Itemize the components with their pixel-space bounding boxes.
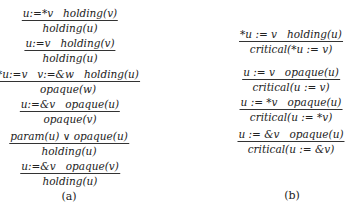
inference-rule: *u := v holding(u) critical(*u := v): [239, 28, 343, 55]
rule-divider: [242, 79, 340, 80]
rule-premise: *u:=v v:=&w holding(u): [0, 68, 140, 80]
rule-conclusion: critical(u := v): [251, 81, 330, 93]
rule-premise: param(u) ∨ opaque(u): [9, 130, 129, 142]
rule-premise: u:=&v opaque(v): [20, 160, 120, 172]
rule-divider: [239, 41, 343, 42]
rule-conclusion: critical(u := &v): [247, 143, 336, 155]
inference-rule: *u:=v v:=&w holding(u) opaque(w): [0, 68, 140, 95]
rule-premise: u := v opaque(u): [242, 66, 340, 78]
rule-divider: [0, 81, 140, 82]
rule-premise: u:=v holding(v): [24, 37, 115, 49]
rule-premise: *u := v holding(u): [239, 28, 343, 40]
inference-rule: u:=v holding(v) holding(u): [24, 37, 115, 64]
rule-conclusion: holding(u): [42, 22, 99, 34]
rule-premise: u:=&v opaque(u): [20, 98, 120, 110]
rule-premise: u := &v opaque(u): [237, 128, 344, 140]
panel-a-caption: (a): [61, 190, 76, 203]
rule-divider: [22, 20, 118, 21]
rule-conclusion: opaque(v): [42, 113, 97, 125]
rule-divider: [20, 173, 120, 174]
rule-premise: u:=*v holding(v): [22, 7, 118, 19]
rule-conclusion: holding(u): [42, 52, 99, 64]
rule-conclusion: critical(*u := v): [249, 43, 333, 55]
inference-rule: u:=&v opaque(u) opaque(v): [20, 98, 120, 125]
inference-rule: u := v opaque(u) critical(u := v): [242, 66, 340, 93]
rule-divider: [24, 50, 115, 51]
inference-rule: u:=&v opaque(v) holding(u): [20, 160, 120, 187]
rule-divider: [237, 141, 344, 142]
panel-b-caption: (b): [284, 189, 300, 202]
inference-rule: u:=*v holding(v) holding(u): [22, 7, 118, 34]
rule-conclusion: holding(u): [42, 175, 99, 187]
rule-conclusion: holding(u): [41, 145, 98, 157]
rule-divider: [9, 143, 129, 144]
rule-divider: [20, 111, 120, 112]
rule-conclusion: opaque(w): [39, 83, 97, 95]
inference-rule: u := *v opaque(u) critical(u := *v): [240, 96, 343, 123]
inference-rule: u := &v opaque(u) critical(u := &v): [237, 128, 344, 155]
rule-conclusion: critical(u := *v): [249, 111, 333, 123]
inference-rule: param(u) ∨ opaque(u) holding(u): [9, 130, 129, 157]
rule-divider: [240, 109, 343, 110]
rule-premise: u := *v opaque(u): [240, 96, 343, 108]
